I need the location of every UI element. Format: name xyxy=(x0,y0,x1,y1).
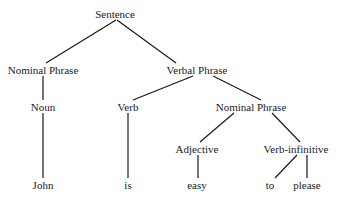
edge-sentence-vp xyxy=(117,20,176,63)
edge-np2-adj xyxy=(200,113,234,142)
node-sentence: Sentence xyxy=(95,9,135,20)
node-np1: Nominal Phrase xyxy=(8,65,79,76)
node-please: please xyxy=(293,180,320,191)
node-john: John xyxy=(33,180,54,191)
edge-vinf-to xyxy=(275,155,297,178)
node-vp: Verbal Phrase xyxy=(167,65,228,76)
edge-vp-np2 xyxy=(213,76,261,100)
node-is: is xyxy=(124,180,131,191)
node-np2: Nominal Phrase xyxy=(216,102,287,113)
node-vinf: Verb-infinitive xyxy=(264,144,329,155)
node-to: to xyxy=(266,180,275,191)
edge-np2-vinf xyxy=(272,113,300,142)
node-noun: Noun xyxy=(31,102,55,113)
edge-sentence-np1 xyxy=(46,20,116,63)
node-adj: Adjective xyxy=(176,144,219,155)
node-easy: easy xyxy=(187,180,207,191)
node-verb: Verb xyxy=(118,102,139,113)
edge-vp-verb xyxy=(133,76,193,100)
syntax-tree-diagram: SentenceNominal PhraseVerbal PhraseNounV… xyxy=(0,0,343,201)
